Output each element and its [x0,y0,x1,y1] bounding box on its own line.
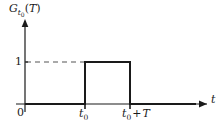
x-axis-arrowhead [199,101,207,108]
y-axis-function-label: Gt0(T) [9,3,41,17]
figure-container: Gt0(T) 1 0 t0 t0+T t [0,0,224,133]
plot-canvas [0,0,224,133]
y-axis-function-subscript: t0 [18,8,25,17]
x-axis-name-label: t [211,94,215,105]
y-axis-arrowhead [22,19,29,27]
y-tick-label-one: 1 [15,56,22,67]
x-tick-label-t0-plus-T: t0+T [122,108,150,121]
x-tick-t0end-operator: + [131,107,142,120]
y-axis-function-base: G [9,2,18,15]
x-tick-label-t0: t0 [79,108,88,121]
axes-group [16,19,207,112]
y-axis-function-paren-close: ) [36,2,40,15]
origin-label: 0 [17,107,24,118]
x-tick-t0end-term: T [142,107,149,120]
x-tick-t0-index: 0 [83,113,88,122]
gate-function-curve [25,62,196,104]
